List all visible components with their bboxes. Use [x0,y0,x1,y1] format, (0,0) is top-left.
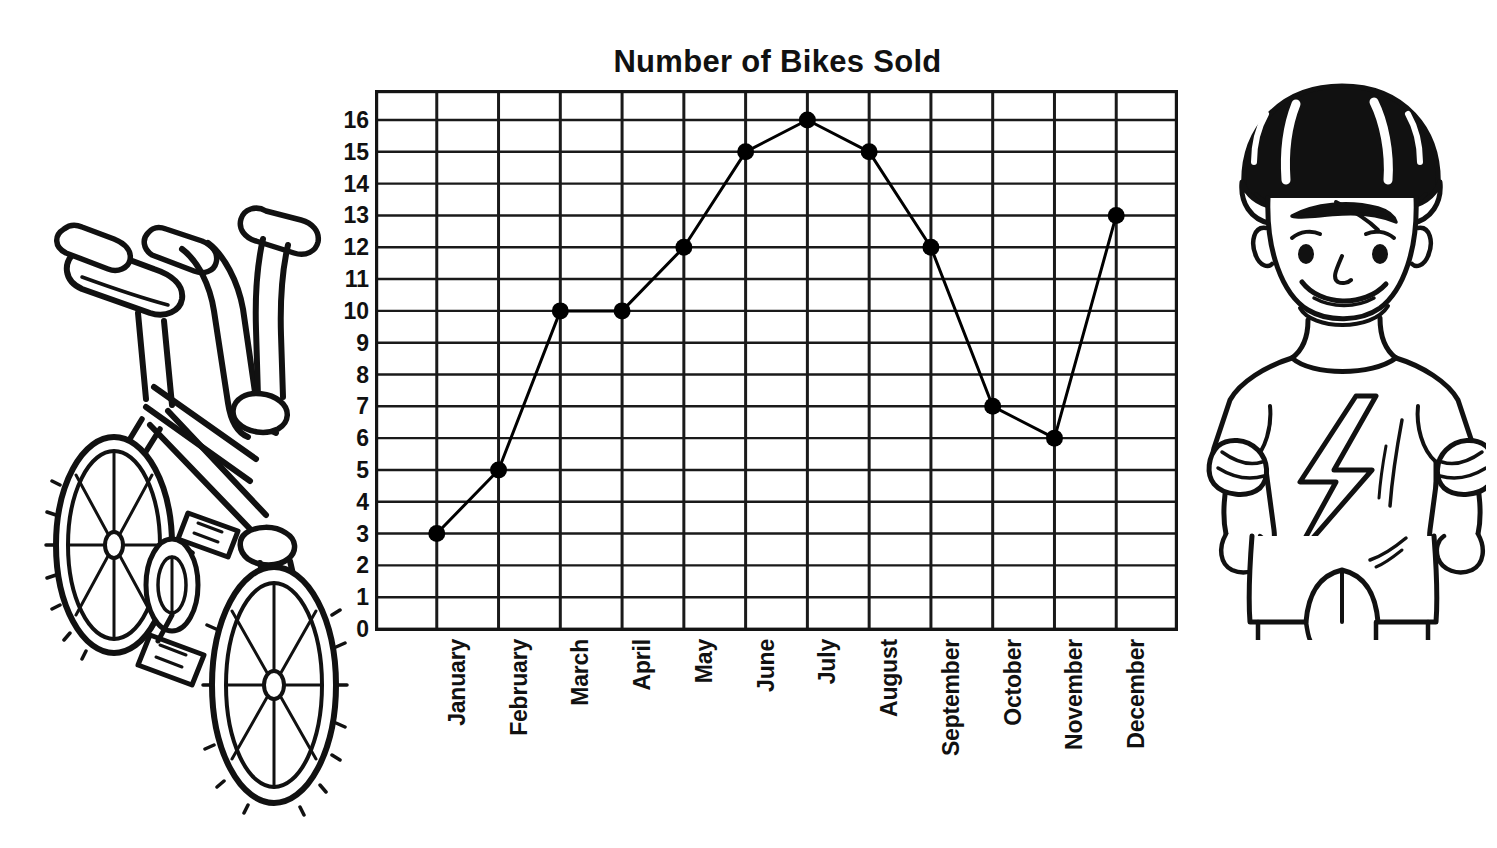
chart-title: Number of Bikes Sold [375,44,1180,80]
x-axis-tick-label: February [508,639,531,736]
y-axis-tick-label: 9 [356,331,369,354]
x-axis-tick-label: March [569,639,592,706]
bicycle-illustration [42,185,352,825]
data-point [984,398,1001,415]
data-point [428,525,445,542]
data-point [614,302,631,319]
y-axis-tick-label: 15 [343,140,369,163]
x-axis-tick-label: August [878,639,901,717]
data-point [922,239,939,256]
x-axis-tick-label: June [755,639,778,692]
y-axis-tick-label: 3 [356,522,369,545]
x-axis-tick-label: December [1125,639,1148,749]
data-point [799,112,816,129]
x-axis-tick-label: January [446,639,469,726]
worksheet-page: Number of Bikes Sold 0123456789101112131… [0,0,1497,848]
y-axis-tick-label: 16 [343,109,369,132]
x-axis-tick-label: May [693,639,716,683]
data-markers [428,112,1124,543]
data-point [1108,207,1125,224]
x-axis-tick-label: October [1002,639,1025,726]
data-point [490,461,507,478]
y-axis-tick-label: 2 [356,554,369,577]
x-axis-tick-label: September [940,639,963,756]
y-axis-tick-label: 5 [356,458,369,481]
x-axis-labels: JanuaryFebruaryMarchAprilMayJuneJulyAugu… [375,639,1178,829]
line-chart-graphic [375,90,1178,631]
plot-area [375,90,1178,631]
x-axis-tick-label: April [631,639,654,690]
data-point [1046,430,1063,447]
data-point [552,302,569,319]
y-axis-tick-label: 7 [356,395,369,418]
boy-illustration [1196,70,1486,640]
data-point [675,239,692,256]
y-axis-tick-label: 4 [356,490,369,513]
y-axis-tick-label: 8 [356,363,369,386]
data-point [737,143,754,160]
y-axis-tick-label: 6 [356,427,369,450]
y-axis-tick-label: 0 [356,618,369,641]
data-point [861,143,878,160]
x-axis-tick-label: July [816,639,839,684]
data-line [437,120,1116,534]
plot-border [377,92,1177,630]
x-axis-tick-label: November [1063,639,1086,750]
grid-lines [375,90,1178,631]
y-axis-tick-label: 1 [356,586,369,609]
